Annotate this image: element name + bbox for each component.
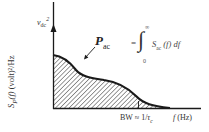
impulse-arrow-icon — [51, 24, 57, 32]
integral-sign: ∫ — [138, 27, 144, 53]
area-label: Pac — [95, 33, 110, 51]
impulse-label: vdc2 — [37, 16, 49, 28]
y-axis-label: SP(f) (volt)²/Hz — [6, 56, 19, 108]
integral-upper-limit: ∞ — [145, 24, 149, 30]
bandwidth-label: BW ≈ 1/τc — [120, 113, 153, 124]
integrand: Sac (f) df — [152, 39, 180, 51]
integral-lower-limit: 0 — [143, 58, 146, 64]
equals-sign: = — [131, 38, 136, 48]
x-axis-label: f (Hz) — [173, 113, 192, 122]
